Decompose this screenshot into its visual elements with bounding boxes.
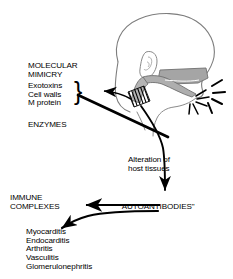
label-agent-list: Exotoxins Cell walls M protein xyxy=(28,82,62,108)
arrow-to-diseases xyxy=(62,211,158,228)
arrow-to-enzymes xyxy=(78,95,168,137)
diagram-canvas: MOLECULAR MIMICRY Exotoxins Cell walls M… xyxy=(0,0,233,279)
arrow-to-mimicry xyxy=(104,91,131,99)
label-alteration-of-host-tissues: Alteration of host tissues xyxy=(128,156,170,173)
label-molecular-mimicry: MOLECULAR MIMICRY xyxy=(28,62,77,79)
label-disease-list: Myocarditis Endocarditis Arthritis Vascu… xyxy=(26,228,92,272)
brace-icon: } xyxy=(74,79,82,104)
arrow-to-autoantibodies xyxy=(141,106,165,190)
label-autoantibodies: "AUTOANTIBODIES" xyxy=(119,203,195,212)
label-immune-complexes: IMMUNE COMPLEXES xyxy=(10,194,59,211)
label-enzymes: ENZYMES xyxy=(28,121,66,130)
